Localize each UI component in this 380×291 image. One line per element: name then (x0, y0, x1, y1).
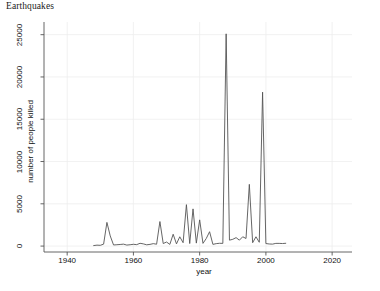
x-tick-label: 1960 (125, 256, 143, 265)
chart-root: Earthquakes number of people killed year… (0, 0, 380, 291)
y-tick-label: 10000 (15, 143, 24, 181)
x-tick-label: 1940 (58, 256, 76, 265)
y-tick-label: 5000 (15, 185, 24, 223)
x-tick-label: 1980 (191, 256, 209, 265)
x-tick-label: 2020 (323, 256, 341, 265)
y-tick-label: 15000 (15, 100, 24, 138)
x-axis-title: year (196, 267, 212, 276)
x-tick-label: 2000 (257, 256, 275, 265)
y-tick-label: 25000 (15, 16, 24, 54)
y-tick-label: 0 (15, 227, 24, 265)
panel-background (44, 22, 352, 252)
y-tick-label: 20000 (15, 58, 24, 96)
chart-canvas (0, 0, 380, 291)
plot-area: number of people killed year 19401960198… (0, 0, 380, 291)
y-axis-title: number of people killed (26, 62, 35, 222)
